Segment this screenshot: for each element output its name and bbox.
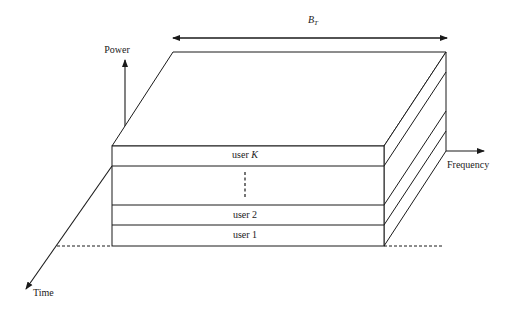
layer-label-user-k-prefix: user [232, 149, 249, 160]
time-axis-label: Time [33, 288, 54, 298]
power-axis-label: Power [104, 45, 130, 55]
layer-label-user-k: user K [232, 150, 258, 160]
layer-label-user-1: user 1 [233, 230, 257, 240]
bandwidth-label: BT [308, 15, 318, 27]
time-axis-arrow [26, 166, 112, 289]
frequency-axis-label: Frequency [447, 160, 489, 170]
layer-label-user-2: user 2 [233, 210, 257, 220]
bandwidth-subscript: T [314, 19, 318, 27]
layer-label-user-k-suffix: K [251, 149, 258, 160]
